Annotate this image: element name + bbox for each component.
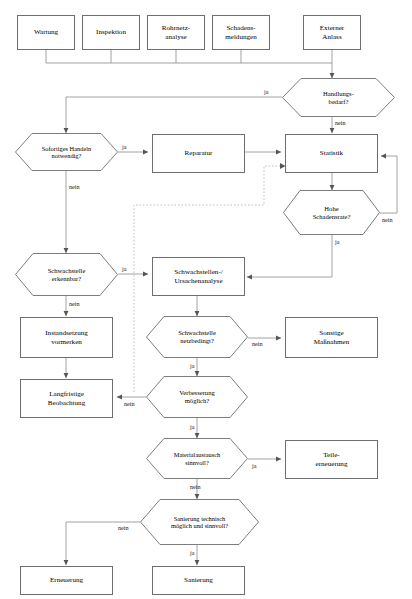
node-label-line1: Instandsetzung bbox=[45, 329, 88, 337]
edge-label-netzbedingt-nein: nein bbox=[252, 340, 263, 347]
node-sonstige-massnahmen[interactable]: Sonstige Maßnahmen bbox=[285, 317, 378, 358]
node-label: Hohe Schadensrate? bbox=[283, 190, 380, 235]
node-label: Sanierung bbox=[184, 576, 213, 584]
node-label-line2: möglich? bbox=[185, 397, 210, 404]
node-label-line1: Langfristige bbox=[49, 390, 84, 398]
edge-label-schwachstelle-ja: ja bbox=[122, 265, 126, 272]
node-label-line2: netzbedingt? bbox=[180, 337, 214, 344]
node-erneuerung[interactable]: Erneuerung bbox=[20, 566, 113, 595]
node-label: Schwachstellen-/ Ursachenanalyse bbox=[174, 268, 222, 284]
node-label-line2: vormerken bbox=[51, 338, 82, 346]
node-label: Verbesserung möglich? bbox=[146, 376, 248, 418]
node-label-line1: Sofortiges Handeln bbox=[42, 145, 92, 152]
edge-label-verbesserung-nein: nein bbox=[124, 400, 135, 407]
node-label: Schwachstelle erkennbar? bbox=[15, 253, 118, 296]
node-label: Instandsetzung vormerken bbox=[45, 329, 88, 345]
node-label: Schadens- meldungen bbox=[225, 24, 257, 40]
node-inspektion[interactable]: Inspektion bbox=[82, 15, 140, 50]
node-label-line2: sinnvoll? bbox=[185, 459, 208, 466]
node-handlungsbedarf[interactable]: Handlungs- bedarf? bbox=[282, 78, 395, 117]
node-externer-anlass[interactable]: Externer Anlass bbox=[303, 15, 361, 50]
node-label: Teile- erneuerung bbox=[316, 451, 348, 467]
edge-label-hohe-ja: ja bbox=[335, 238, 339, 245]
node-hohe-schadensrate[interactable]: Hohe Schadensrate? bbox=[283, 190, 380, 235]
flowchart-canvas: Wartung Inspektion Rohrnetz- analyse Sch… bbox=[0, 0, 412, 599]
node-reparatur[interactable]: Reparatur bbox=[152, 134, 245, 173]
edge-label-hohe-nein: nein bbox=[382, 216, 393, 223]
node-label-line2: notwendig? bbox=[52, 152, 82, 159]
edge-label-netzbedingt-ja: ja bbox=[190, 362, 194, 369]
node-verbesserung-moeglich[interactable]: Verbesserung möglich? bbox=[146, 376, 248, 418]
node-langfristige-beobachtung[interactable]: Langfristige Beobachtung bbox=[20, 379, 113, 418]
node-rohrnetzanalyse[interactable]: Rohrnetz- analyse bbox=[147, 15, 205, 50]
edge-label-material-nein: nein bbox=[190, 483, 201, 490]
node-schadensmeldungen[interactable]: Schadens- meldungen bbox=[212, 15, 270, 50]
node-label-line1: Schwachstelle bbox=[48, 267, 86, 274]
node-label: Wartung bbox=[34, 28, 58, 36]
node-sofortiges-handeln[interactable]: Sofortiges Handeln notwendig? bbox=[15, 133, 118, 171]
node-label-line2: bedarf? bbox=[329, 98, 349, 105]
node-label-line2: meldungen bbox=[225, 33, 257, 41]
node-label-line2: erneuerung bbox=[316, 460, 348, 468]
node-label-line2: möglich und sinnvoll? bbox=[171, 522, 228, 529]
node-label-line1: Verbesserung bbox=[179, 389, 215, 396]
node-label: Rohrnetz- analyse bbox=[162, 24, 190, 40]
node-label: Materialaustausch sinnvoll? bbox=[146, 438, 248, 479]
node-label-line1: Externer bbox=[320, 24, 344, 32]
node-label-line2: analyse bbox=[165, 33, 186, 41]
node-label: Schwachstelle netzbedingt? bbox=[146, 316, 248, 358]
node-label-line1: Handlungs- bbox=[323, 90, 354, 97]
node-label-line2: Beobachtung bbox=[48, 399, 85, 407]
node-teile-erneuerung[interactable]: Teile- erneuerung bbox=[285, 440, 378, 479]
node-instandsetzung-vormerken[interactable]: Instandsetzung vormerken bbox=[20, 317, 113, 358]
node-schwachstelle-erkennbar[interactable]: Schwachstelle erkennbar? bbox=[15, 253, 118, 296]
node-ursachenanalyse[interactable]: Schwachstellen-/ Ursachenanalyse bbox=[152, 257, 245, 296]
node-label-line1: Rohrnetz- bbox=[162, 24, 190, 32]
node-label-line1: Hohe bbox=[324, 205, 338, 212]
node-label-line2: Anlass bbox=[322, 33, 341, 41]
node-label: Langfristige Beobachtung bbox=[48, 390, 85, 406]
node-sanierung[interactable]: Sanierung bbox=[152, 566, 245, 595]
node-label-line1: Sanierung technisch bbox=[174, 515, 226, 522]
node-materialaustausch-sinnvoll[interactable]: Materialaustausch sinnvoll? bbox=[146, 438, 248, 479]
node-sanierung-moeglich[interactable]: Sanierung technisch möglich und sinnvoll… bbox=[140, 499, 259, 545]
node-label: Reparatur bbox=[185, 149, 213, 157]
edge-label-handlungsbedarf-nein: nein bbox=[335, 119, 346, 126]
node-label: Sonstige Maßnahmen bbox=[314, 329, 349, 345]
node-label-line1: Teile- bbox=[323, 451, 339, 459]
node-label: Sanierung technisch möglich und sinnvoll… bbox=[140, 499, 259, 545]
edge-label-verbesserung-ja: ja bbox=[190, 423, 194, 430]
edge-label-handlungsbedarf-ja: ja bbox=[264, 88, 268, 95]
node-label-line2: Maßnahmen bbox=[314, 338, 349, 346]
node-label-line1: Schwachstelle bbox=[178, 329, 216, 336]
node-label-line1: Materialaustausch bbox=[174, 451, 221, 458]
node-label-line1: Schwachstellen-/ bbox=[174, 268, 222, 276]
node-label: Statistik bbox=[320, 149, 343, 157]
node-label-line1: Sonstige bbox=[319, 329, 343, 337]
node-label: Handlungs- bedarf? bbox=[282, 78, 395, 117]
node-label-line2: Schadensrate? bbox=[313, 213, 351, 220]
node-label: Erneuerung bbox=[50, 576, 83, 584]
edge-label-sofortiges-nein: nein bbox=[69, 183, 80, 190]
node-label-line2: Ursachenanalyse bbox=[174, 277, 222, 285]
node-schwachstelle-netzbedingt[interactable]: Schwachstelle netzbedingt? bbox=[146, 316, 248, 358]
edge-label-sanierung-ja: ja bbox=[190, 549, 194, 556]
node-wartung[interactable]: Wartung bbox=[17, 15, 75, 50]
node-label: Externer Anlass bbox=[320, 24, 344, 40]
node-label: Inspektion bbox=[96, 28, 126, 36]
node-statistik[interactable]: Statistik bbox=[285, 134, 378, 173]
edge-label-material-ja: ja bbox=[252, 462, 256, 469]
edge-label-sanierung-nein: nein bbox=[118, 524, 129, 531]
node-label-line2: erkennbar? bbox=[52, 275, 81, 282]
edge-label-sofortiges-ja: ja bbox=[122, 143, 126, 150]
edge-label-schwachstelle-nein: nein bbox=[69, 300, 80, 307]
node-label-line1: Schadens- bbox=[226, 24, 255, 32]
node-label: Sofortiges Handeln notwendig? bbox=[15, 133, 118, 171]
